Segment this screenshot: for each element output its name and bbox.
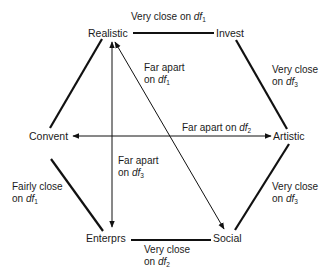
label-artistic-social: Very close [272,181,319,192]
edge-realistic-convent [50,39,102,128]
node-artistic: Artistic [273,130,305,142]
label-artistic-social-2: on df3 [272,193,298,205]
edge-convent-enterprs [51,159,103,231]
node-convent: Convent [29,130,68,142]
label-convent-artistic: Far apart on df2 [182,122,252,134]
label-realistic-social-2: on df1 [144,74,170,86]
label-invest-artistic-2: on df3 [272,76,298,88]
label-realistic-social: Far apart [144,62,185,73]
label-realistic-invest: Very close on df1 [131,11,206,23]
label-realistic-enterprs: Far apart [118,155,159,166]
label-invest-artistic: Very close [272,64,319,75]
node-realistic: Realistic [88,27,128,39]
label-convent-enterprs-2: on df1 [12,193,38,205]
hexagon-diagram: Realistic Invest Artistic Social Enterpr… [0,0,333,274]
label-realistic-enterprs-2: on df3 [118,167,144,179]
label-enterprs-social: Very close [144,244,191,255]
node-invest: Invest [216,27,244,39]
node-social: Social [213,232,242,244]
label-convent-enterprs: Fairly close [12,181,63,192]
label-enterprs-social-2: on df2 [144,256,170,268]
node-enterprs: Enterprs [86,232,126,244]
